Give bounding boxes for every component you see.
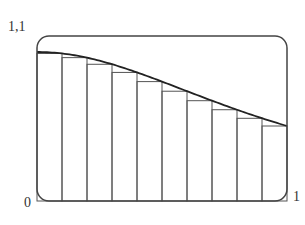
riemann-rectangle: [162, 91, 187, 201]
riemann-rectangle: [137, 82, 162, 201]
y-max-label: 1,1: [8, 20, 26, 34]
riemann-rectangle: [212, 110, 237, 201]
x-max-label: 1: [293, 190, 300, 204]
riemann-rectangle: [37, 53, 62, 201]
riemann-rectangle: [187, 101, 212, 201]
riemann-rectangle: [237, 118, 262, 201]
x-min-label: 0: [24, 196, 31, 210]
riemann-rectangle: [62, 58, 87, 201]
riemann-rectangle: [87, 64, 112, 201]
riemann-rectangle: [262, 126, 287, 201]
riemann-rectangle: [112, 72, 137, 201]
riemann-sum-chart: [0, 0, 305, 225]
riemann-rectangles: [37, 53, 287, 201]
